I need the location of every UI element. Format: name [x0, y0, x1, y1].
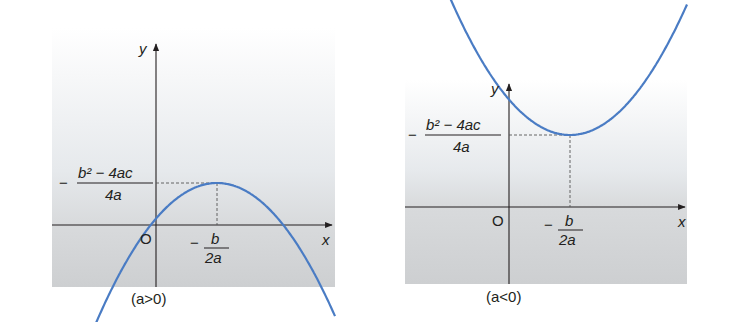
- vertex-x-numerator: b: [565, 212, 573, 229]
- vertex-y-sign: −: [59, 174, 68, 191]
- vertex-x-denominator: 2a: [558, 231, 576, 248]
- vertex-x-sign: −: [190, 234, 199, 251]
- panel-caption: (a>0): [131, 290, 166, 307]
- panel-a-positive: y x O − b² − 4ac 4a − b 2a (a>0): [52, 28, 335, 322]
- vertex-x-numerator: b: [211, 230, 219, 247]
- vertex-x-denominator: 2a: [204, 249, 222, 266]
- vertex-y-denominator: 4a: [105, 186, 122, 203]
- vertex-y-sign: −: [408, 126, 417, 143]
- vertex-y-denominator: 4a: [453, 138, 470, 155]
- panel-background: [405, 80, 687, 284]
- origin-label: O: [140, 230, 152, 247]
- panel-caption: (a<0): [486, 288, 521, 305]
- origin-label: O: [492, 212, 504, 229]
- panel-a-negative: y x O − b² − 4ac 4a − b 2a (a<0): [405, 0, 687, 305]
- x-axis-label: x: [321, 231, 330, 248]
- vertex-y-numerator: b² − 4ac: [78, 164, 133, 181]
- vertex-y-numerator: b² − 4ac: [426, 116, 481, 133]
- vertex-x-sign: −: [544, 216, 553, 233]
- parabola-diagram: y x O − b² − 4ac 4a − b 2a (a>0) y x O −…: [0, 0, 747, 322]
- x-axis-label: x: [677, 213, 686, 230]
